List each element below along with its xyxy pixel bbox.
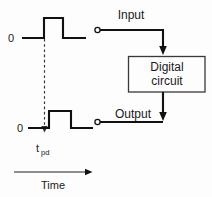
input-wire-path — [99, 30, 163, 48]
tpd-label-group: t pd — [36, 142, 49, 157]
output-waveform-trace — [28, 111, 93, 128]
output-zero-label: 0 — [17, 122, 23, 134]
output-label: Output — [115, 107, 152, 121]
input-connection-group — [95, 27, 167, 55]
digital-circuit-label-line1: Digital — [150, 60, 183, 74]
diagram-canvas: 0 0 t pd Time Input — [0, 0, 212, 197]
output-waveform-group — [28, 111, 93, 128]
input-terminal-node[interactable] — [95, 27, 100, 32]
input-arrow-down-icon — [159, 46, 167, 55]
output-arrow-down-icon — [159, 112, 167, 121]
input-waveform-group — [22, 18, 86, 38]
time-axis-group — [14, 169, 93, 175]
delay-marker-group — [41, 39, 47, 133]
time-axis-label: Time — [41, 179, 65, 191]
output-terminal-node[interactable] — [95, 119, 100, 124]
tpd-subscript-label: pd — [41, 148, 49, 157]
time-axis-arrow-right-icon — [85, 169, 93, 175]
digital-circuit-label-line2: circuit — [151, 74, 183, 88]
tpd-base-label: t — [36, 142, 39, 154]
propagation-delay-diagram: 0 0 t pd Time Input — [0, 0, 212, 197]
input-label: Input — [118, 8, 145, 22]
input-zero-label: 0 — [8, 32, 14, 44]
input-waveform-trace — [22, 18, 86, 38]
